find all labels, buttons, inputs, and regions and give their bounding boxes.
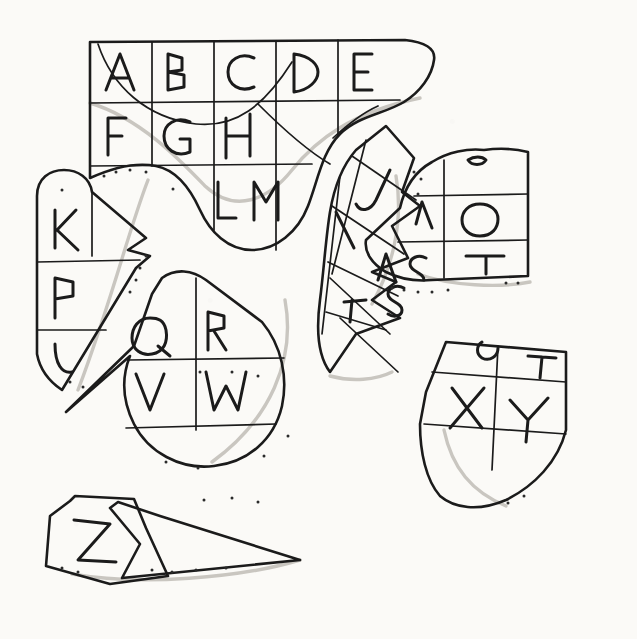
letter-group-row1	[106, 54, 372, 92]
letter-U	[55, 344, 72, 372]
drawing-canvas	[0, 0, 637, 639]
piece-left-column	[37, 170, 150, 390]
letter-D	[294, 54, 318, 92]
letter-W	[206, 372, 246, 410]
letter-I	[336, 212, 354, 248]
piece-warped-strip	[318, 126, 420, 372]
apostrophe-mark	[468, 157, 486, 165]
letter-X	[450, 388, 484, 428]
letter-P	[55, 278, 73, 318]
letter-group-z-sliver	[74, 520, 116, 562]
drop-shadows	[72, 98, 530, 580]
letter-E	[354, 54, 372, 90]
letter-M	[254, 182, 278, 220]
piece-top-band	[90, 40, 434, 250]
letter-group-teardrop	[132, 312, 246, 410]
letter-R	[208, 312, 226, 350]
letter-F	[108, 118, 126, 155]
letter-Z	[74, 520, 116, 562]
piece-shield	[420, 342, 566, 507]
letter-V	[136, 374, 164, 410]
letter-B	[168, 54, 184, 90]
letter-group-left-column	[55, 210, 78, 372]
letter-K	[55, 210, 78, 250]
grid-lines-left-column	[37, 192, 140, 330]
piece-teardrop	[66, 271, 284, 466]
letter-group-right-block	[410, 157, 504, 280]
letter-T	[466, 256, 504, 274]
letter-S-partial-block	[410, 256, 426, 280]
letter-J	[356, 170, 390, 210]
letter-T-top	[528, 356, 556, 378]
letter-C	[228, 56, 254, 89]
torn-alphabet-grid-illustration	[0, 0, 637, 639]
letter-O	[462, 204, 498, 236]
letter-G	[164, 120, 190, 154]
letter-Y	[510, 398, 548, 442]
grid-lines-shield	[424, 346, 566, 470]
